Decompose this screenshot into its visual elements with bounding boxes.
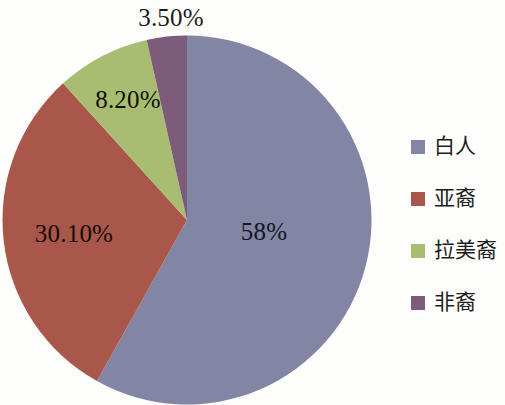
pie-chart: 58% 30.10% 8.20% 3.50% 白人亚裔拉美裔非裔	[0, 0, 505, 405]
legend-item[interactable]: 白人	[411, 134, 505, 159]
legend-swatch-icon	[411, 140, 425, 154]
legend-item[interactable]: 非裔	[411, 290, 505, 315]
legend-swatch-icon	[411, 244, 425, 258]
legend-item[interactable]: 拉美裔	[411, 238, 505, 263]
slice-label-asian: 30.10%	[35, 220, 113, 248]
legend-swatch-icon	[411, 192, 425, 206]
pie-svg	[0, 0, 380, 405]
legend-item-label: 非裔	[434, 292, 476, 313]
slice-label-latino: 8.20%	[95, 86, 161, 114]
legend-item-label: 亚裔	[434, 188, 476, 209]
legend-swatch-icon	[411, 296, 425, 310]
legend-item-label: 白人	[434, 136, 476, 157]
slice-label-african: 3.50%	[138, 4, 204, 32]
pie-plot-area: 58% 30.10% 8.20% 3.50%	[0, 0, 380, 405]
slice-label-white: 58%	[241, 218, 287, 246]
legend-item[interactable]: 亚裔	[411, 186, 505, 211]
legend-item-label: 拉美裔	[434, 240, 497, 261]
chart-legend: 白人亚裔拉美裔非裔	[411, 134, 505, 342]
